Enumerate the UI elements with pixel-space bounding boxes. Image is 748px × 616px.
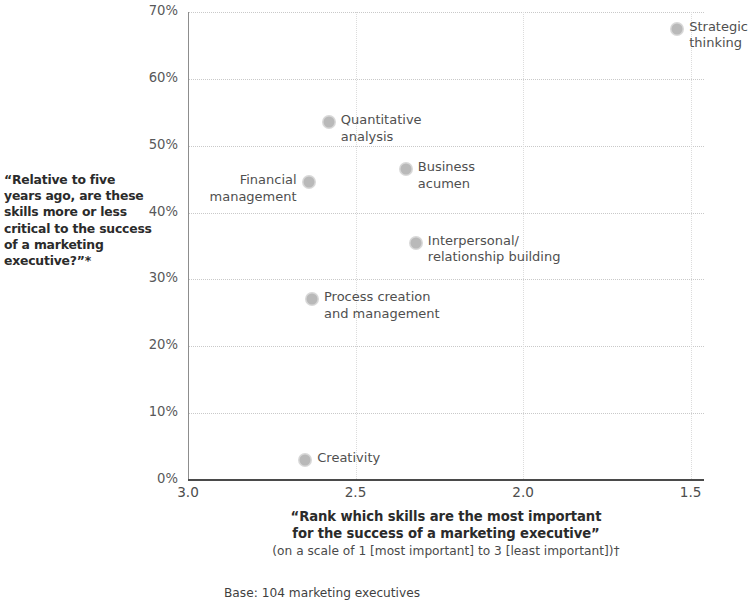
y-axis-tick-labels: 0%10%20%30%40%50%60%70% [0, 0, 186, 616]
data-point-label: Process creation and management [324, 289, 440, 322]
x-axis-scale-note: (on a scale of 1 [most important] to 3 [… [188, 543, 704, 560]
y-tick-label: 40% [149, 204, 178, 219]
y-tick-label: 50% [149, 137, 178, 152]
data-point-label: Creativity [317, 450, 380, 467]
data-point-label: Quantitative analysis [341, 112, 422, 145]
y-tick-label: 60% [149, 70, 178, 85]
x-tick-label: 2.0 [512, 484, 534, 500]
x-tick-label: 2.5 [345, 484, 367, 500]
data-point-label: Financial management [210, 172, 297, 205]
data-point-marker[interactable] [306, 294, 317, 305]
gridline-horizontal [188, 12, 704, 13]
data-point-marker[interactable] [672, 23, 683, 34]
x-tick-label: 3.0 [177, 484, 199, 500]
data-point-label: Business acumen [418, 159, 475, 192]
x-axis-title-line1: “Rank which skills are the most importan… [188, 508, 704, 525]
data-point-marker[interactable] [323, 117, 334, 128]
base-note: Base: 104 marketing executives [224, 586, 420, 600]
x-axis-tick-labels: 3.02.52.01.5 [188, 484, 704, 506]
gridline-horizontal [188, 346, 704, 347]
data-point-marker[interactable] [300, 454, 311, 465]
x-axis-title-line2: for the success of a marketing executive… [188, 525, 704, 542]
y-tick-label: 0% [157, 471, 178, 486]
gridline-horizontal [188, 413, 704, 414]
data-point-marker[interactable] [303, 177, 314, 188]
gridline-horizontal [188, 279, 704, 280]
gridline-horizontal [188, 213, 704, 214]
data-point-marker[interactable] [400, 164, 411, 175]
y-axis-line [188, 12, 189, 480]
y-tick-label: 20% [149, 337, 178, 352]
x-axis-line [188, 479, 704, 481]
plot-area: Strategic thinkingQuantitative analysisB… [188, 12, 704, 480]
gridline-vertical [356, 12, 357, 479]
data-point-label: Interpersonal/ relationship building [428, 233, 561, 266]
x-tick-label: 1.5 [680, 484, 702, 500]
data-point-marker[interactable] [410, 237, 421, 248]
gridline-horizontal [188, 79, 704, 80]
gridline-vertical [691, 12, 692, 479]
x-axis-title: “Rank which skills are the most importan… [188, 508, 704, 560]
y-tick-label: 30% [149, 270, 178, 285]
y-tick-label: 10% [149, 404, 178, 419]
gridline-horizontal [188, 146, 704, 147]
y-tick-label: 70% [149, 3, 178, 18]
data-point-label: Strategic thinking [689, 19, 748, 52]
